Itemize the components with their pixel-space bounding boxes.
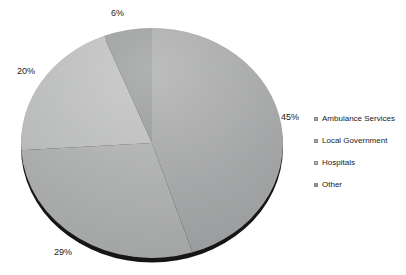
pie-highlight: [21, 28, 283, 258]
legend-marker-icon: [314, 161, 318, 165]
legend-marker-icon: [314, 183, 318, 187]
chart-legend: Ambulance Services Local Government Hosp…: [314, 114, 395, 189]
legend-label: Hospitals: [322, 158, 355, 167]
legend-item-hospitals: Hospitals: [314, 158, 395, 167]
legend-marker-icon: [314, 139, 318, 143]
legend-marker-icon: [314, 117, 318, 121]
legend-label: Local Government: [322, 136, 387, 145]
pie-chart-figure: 45% 29% 20% 6% Ambulance Services Local …: [0, 0, 406, 275]
legend-label: Ambulance Services: [322, 114, 395, 123]
slice-label-local-government: 29%: [54, 247, 72, 257]
legend-item-ambulance-services: Ambulance Services: [314, 114, 395, 123]
legend-label: Other: [322, 180, 342, 189]
slice-label-other: 6%: [111, 8, 124, 18]
slice-label-hospitals: 20%: [17, 66, 35, 76]
slice-label-ambulance-services: 45%: [281, 112, 299, 122]
legend-item-local-government: Local Government: [314, 136, 395, 145]
legend-item-other: Other: [314, 180, 395, 189]
